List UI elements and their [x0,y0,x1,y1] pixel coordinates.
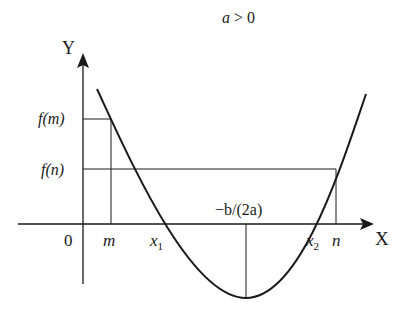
parabola-curve [97,89,366,298]
condition-title: a > 0 [222,9,255,26]
x1-label: x1 [149,231,163,252]
parabola-diagram: a > 0 X Y 0 f(m) f(n) m x1 −b/(2a) x2 n [0,0,408,319]
y-axis-label: Y [62,38,75,58]
fn-label: f(n) [41,161,64,179]
axis-of-symmetry-label: −b/(2a) [215,201,262,219]
x-axis-label: X [375,228,389,249]
title-a: a [222,9,230,26]
x1-subscript: 1 [158,240,164,252]
m-label: m [103,231,115,250]
symmetry-label-text: −b/(2a) [215,201,262,219]
x2-label: x2 [305,231,319,252]
x2-subscript: 2 [314,240,320,252]
origin-label: 0 [64,231,73,250]
fm-label: f(m) [38,110,65,128]
n-label: n [332,231,341,250]
title-rest: > 0 [230,9,255,26]
